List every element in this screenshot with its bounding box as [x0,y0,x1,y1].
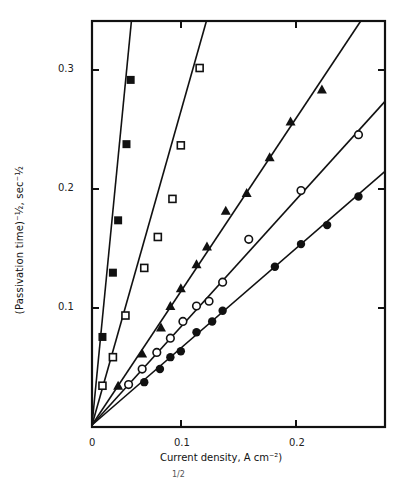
x-tick-0: 0 [89,437,95,448]
fit-line-4 [92,101,385,425]
filled-circle-marker [208,317,216,325]
open-circle-marker [193,302,201,310]
x-tick-0.1: 0.1 [174,437,190,448]
open-square-marker [122,312,129,319]
filled-square-marker [109,269,117,277]
fit-line-2 [92,21,206,425]
axis-ticks [92,21,385,427]
filled-square-marker [98,333,106,341]
x-tick-0.2: 0.2 [289,437,305,448]
open-circle-marker [153,349,161,357]
filled-triangle-marker [113,381,123,390]
open-circle-marker [245,236,253,244]
filled-circle-marker [354,192,362,200]
y-tick-0.2: 0.2 [58,182,74,193]
x-axis-label: Current density, A cm⁻²) [160,452,282,463]
filled-circle-marker [297,240,305,248]
fit-lines [92,21,385,425]
filled-square-marker [127,76,135,84]
open-square-marker [141,264,148,271]
filled-square-marker [114,216,122,224]
filled-square-marker [122,140,130,148]
filled-circle-marker [140,378,148,386]
filled-circle-marker [177,347,185,355]
y-axis-label-text: (Passivation time)⁻½, sec⁻½ [14,166,25,314]
filled-triangle-marker [242,188,252,197]
open-circle-marker [167,334,175,342]
open-circle-marker [179,318,187,326]
filled-circle-marker [323,221,331,229]
filled-circle-marker [218,307,226,315]
y-tick-0.1: 0.1 [58,301,74,312]
plot-frame [92,21,385,427]
y-tick-0.3: 0.3 [58,63,74,74]
filled-circle-marker [271,263,279,271]
open-circle-marker [297,187,305,195]
open-square-marker [154,233,161,240]
fit-line-1 [92,21,131,425]
filled-triangle-marker [137,349,147,358]
data-points [98,65,362,390]
y-axis-label: (Passivation time)⁻½, sec⁻½ [4,140,34,340]
open-square-marker [177,142,184,149]
open-circle-marker [205,297,213,305]
filled-circle-marker [166,353,174,361]
open-square-marker [196,65,203,72]
filled-circle-marker [192,328,200,336]
open-square-marker [99,382,106,389]
passivation-chart: 0 0.1 0.2 0.1 0.2 0.3 [0,0,404,481]
open-square-marker [169,195,176,202]
filled-triangle-marker [221,206,231,215]
open-circle-marker [138,365,146,373]
footnote-fragment: 1/2 [172,470,185,479]
fit-line-5 [92,171,385,425]
filled-circle-marker [156,365,164,373]
open-square-marker [109,354,116,361]
open-circle-marker [125,381,133,389]
open-circle-marker [219,278,227,286]
open-circle-marker [355,131,363,139]
